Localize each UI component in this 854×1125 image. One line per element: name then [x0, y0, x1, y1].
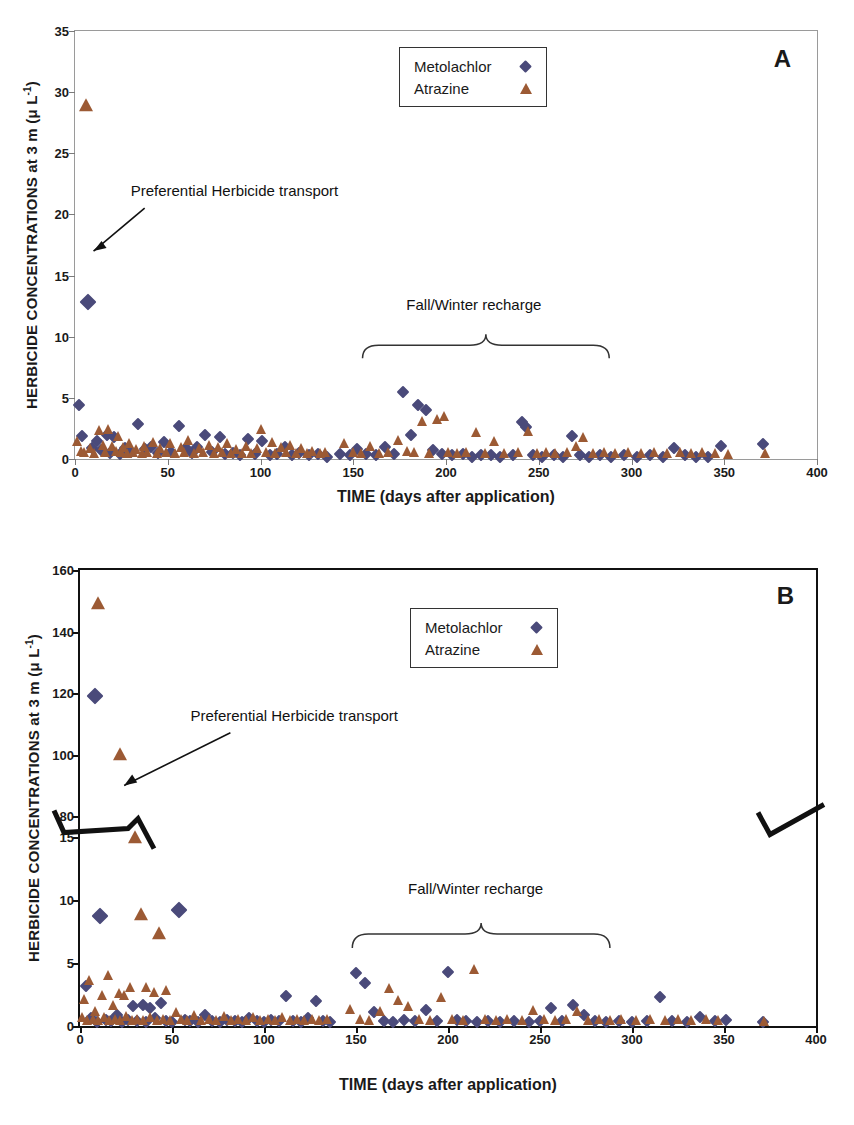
- data-point-atrazine: [491, 1015, 501, 1025]
- data-point-atrazine: [348, 447, 358, 457]
- y-tick-label: 15: [55, 269, 69, 282]
- data-point-metolachlor: [140, 1016, 153, 1029]
- data-point-metolachlor: [191, 1016, 204, 1029]
- y-tick-label: 160: [52, 564, 74, 577]
- data-point-atrazine: [176, 442, 186, 452]
- data-point-metolachlor: [85, 1012, 98, 1025]
- data-point-atrazine: [291, 448, 301, 458]
- data-point-atrazine: [231, 444, 241, 454]
- diamond-icon: [529, 623, 545, 632]
- data-point-metolachlor: [640, 1015, 653, 1028]
- data-point-atrazine: [541, 447, 551, 457]
- data-point-atrazine: [97, 990, 107, 1000]
- data-point-metolachlor: [294, 1016, 307, 1029]
- data-point-metolachlor: [508, 1015, 521, 1028]
- x-tick-label: 250: [529, 1033, 551, 1046]
- x-tick-label: 250: [528, 466, 550, 479]
- data-point-atrazine: [355, 1014, 365, 1024]
- x-tick-mark: [261, 459, 262, 465]
- data-point-atrazine: [649, 447, 659, 457]
- data-point-atrazine: [107, 441, 117, 451]
- triangle-icon: [529, 644, 545, 655]
- x-tick-label: 150: [342, 466, 364, 479]
- data-point-atrazine: [261, 447, 271, 457]
- data-point-atrazine: [248, 1012, 258, 1022]
- x-tick-mark: [539, 459, 540, 465]
- data-point-atrazine: [204, 440, 214, 450]
- data-point-metolachlor: [85, 442, 98, 455]
- data-point-metolachlor: [493, 450, 506, 463]
- x-axis-label-panel-a: TIME (days after application): [74, 488, 818, 506]
- data-point-atrazine: [226, 1015, 236, 1025]
- annotation-arrow-line: [94, 208, 145, 251]
- data-point-metolachlor: [206, 445, 219, 458]
- y-tick-label: 15: [60, 830, 74, 843]
- data-point-atrazine: [276, 442, 286, 452]
- data-point-atrazine: [432, 414, 442, 424]
- data-point-metolachlor: [694, 1011, 707, 1024]
- data-point-atrazine: [562, 447, 572, 457]
- data-point-metolachlor: [427, 444, 440, 457]
- data-point-atrazine: [91, 596, 105, 609]
- data-point-metolachlor: [653, 991, 666, 1004]
- data-point-atrazine: [241, 1015, 251, 1025]
- data-point-atrazine: [237, 448, 247, 458]
- data-point-atrazine: [77, 1012, 87, 1022]
- data-point-atrazine: [458, 1015, 468, 1025]
- data-point-metolachlor: [278, 440, 291, 453]
- data-point-atrazine: [138, 1015, 148, 1025]
- data-point-atrazine: [528, 1005, 538, 1015]
- x-tick-label: 300: [621, 466, 643, 479]
- y-tick-label: 25: [55, 147, 69, 160]
- data-point-metolachlor: [701, 450, 714, 463]
- y-tick-mark: [73, 693, 80, 695]
- data-point-atrazine: [270, 448, 280, 458]
- data-point-metolachlor: [582, 450, 595, 463]
- data-point-atrazine: [113, 747, 127, 760]
- data-point-atrazine: [170, 448, 180, 458]
- data-point-atrazine: [759, 1016, 769, 1026]
- data-point-atrazine: [255, 1015, 265, 1025]
- data-point-metolachlor: [666, 1015, 679, 1028]
- data-point-metolachlor: [165, 445, 178, 458]
- data-point-metolachlor: [378, 440, 391, 453]
- data-point-atrazine: [119, 990, 129, 1000]
- data-point-atrazine: [256, 424, 266, 434]
- data-point-atrazine: [93, 1015, 103, 1025]
- data-point-atrazine: [103, 970, 113, 980]
- data-point-atrazine: [111, 446, 121, 456]
- x-tick-label: 350: [713, 466, 735, 479]
- annotation-fall-winter-recharge: Fall/Winter recharge: [406, 296, 541, 313]
- diamond-icon-shape: [530, 621, 543, 634]
- data-point-atrazine: [149, 987, 159, 997]
- data-point-atrazine: [489, 436, 499, 446]
- data-point-atrazine: [315, 448, 325, 458]
- data-point-atrazine: [189, 448, 199, 458]
- y-tick-label: 35: [55, 25, 69, 38]
- data-point-atrazine: [513, 447, 523, 457]
- data-point-metolachlor: [234, 449, 247, 462]
- data-point-atrazine: [471, 427, 481, 437]
- data-point-atrazine: [82, 1015, 92, 1025]
- data-point-atrazine: [209, 448, 219, 458]
- data-point-metolachlor: [198, 428, 211, 441]
- y-tick-label: 100: [52, 748, 74, 761]
- data-point-atrazine: [356, 448, 366, 458]
- x-tick-label: 50: [161, 466, 175, 479]
- y-tick-mark: [73, 963, 80, 965]
- data-point-atrazine: [116, 447, 126, 457]
- y-tick-mark: [73, 900, 80, 902]
- data-point-atrazine: [588, 448, 598, 458]
- data-point-atrazine: [662, 448, 672, 458]
- data-point-atrazine: [152, 448, 162, 458]
- data-point-metolachlor: [241, 433, 254, 446]
- data-point-atrazine: [189, 1010, 199, 1020]
- annotation-preferential-transport: Preferential Herbicide transport: [190, 707, 398, 724]
- data-point-atrazine: [222, 438, 232, 448]
- annotation-brace: [352, 923, 610, 948]
- data-point-metolachlor: [312, 448, 325, 461]
- data-point-atrazine: [443, 447, 453, 457]
- data-point-atrazine: [452, 448, 462, 458]
- panel-letter-a: A: [774, 45, 791, 73]
- data-point-atrazine: [183, 435, 193, 445]
